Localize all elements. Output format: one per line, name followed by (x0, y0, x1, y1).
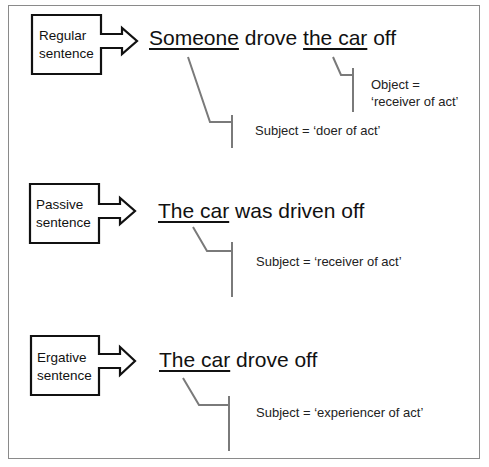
subject-bracket-ergative (183, 378, 229, 451)
passive-sentence: The car was driven off (158, 199, 364, 223)
subject-phrase: The car (158, 199, 229, 222)
object-bracket-regular (333, 57, 353, 112)
label-line: sentence (37, 367, 92, 385)
note-line: Subject = ‘receiver of act’ (256, 253, 402, 270)
regular-sentence: Someone drove the car off (149, 26, 396, 50)
verb-phrase: drove off (230, 348, 317, 371)
label-line: Passive (36, 196, 91, 214)
object-note-regular: Object = ‘receiver of act’ (371, 76, 458, 110)
note-line: Object = (371, 76, 458, 93)
ergative-sentence-label: Ergative sentence (37, 349, 92, 385)
object-phrase: the car (303, 26, 367, 49)
subject-note-regular: Subject = ‘doer of act’ (255, 122, 380, 139)
note-line: Subject = ‘experiencer of act’ (256, 404, 423, 421)
particle: off (367, 26, 396, 49)
subject-bracket-passive (193, 227, 232, 297)
ergative-sentence: The car drove off (159, 348, 317, 372)
label-line: sentence (39, 45, 94, 63)
subject-bracket-regular (188, 57, 232, 148)
subject-note-ergative: Subject = ‘experiencer of act’ (256, 404, 423, 421)
label-line: Ergative (37, 349, 92, 367)
regular-sentence-label: Regular sentence (39, 27, 94, 63)
passive-sentence-label: Passive sentence (36, 196, 91, 232)
diagram-lines (0, 0, 489, 467)
verb-phrase: was driven off (229, 199, 364, 222)
subject-phrase: Someone (149, 26, 239, 49)
subject-phrase: The car (159, 348, 230, 371)
note-line: ‘receiver of act’ (371, 93, 458, 110)
label-line: Regular (39, 27, 94, 45)
note-line: Subject = ‘doer of act’ (255, 122, 380, 139)
verb-phrase: drove (239, 26, 303, 49)
subject-note-passive: Subject = ‘receiver of act’ (256, 253, 402, 270)
label-line: sentence (36, 214, 91, 232)
